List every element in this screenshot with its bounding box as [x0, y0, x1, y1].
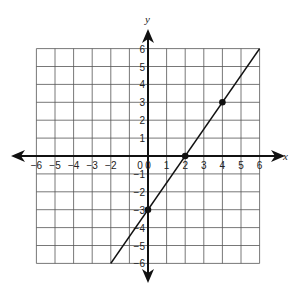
y-tick-label: −6	[134, 258, 146, 269]
axes	[11, 29, 285, 283]
y-tick-label: 6	[139, 44, 145, 55]
y-tick-label: −5	[134, 241, 146, 252]
y-tick-label: −3	[134, 205, 146, 216]
data-point	[219, 99, 226, 106]
y-axis-label: y	[144, 13, 150, 25]
x-tick-label: 2	[182, 160, 188, 171]
data-point	[145, 206, 152, 213]
y-tick-label: 1	[139, 133, 145, 144]
x-axis-label: x	[282, 150, 288, 162]
y-tick-label: 4	[139, 79, 145, 90]
x-tick-label: 3	[201, 160, 207, 171]
x-tick-label: −6	[31, 160, 43, 171]
x-tick-label: −5	[49, 160, 61, 171]
y-tick-label: 2	[139, 115, 145, 126]
y-tick-label: −2	[134, 187, 146, 198]
x-tick-label: 5	[238, 160, 244, 171]
coordinate-plane: −6−5−4−3−201234560654321−1−2−3−4−5−6 x y	[0, 0, 303, 294]
x-tick-label: 4	[220, 160, 226, 171]
x-tick-label: 1	[164, 160, 170, 171]
x-tick-label: −4	[68, 160, 80, 171]
x-tick-label: 6	[257, 160, 263, 171]
x-tick-label: 0	[145, 160, 151, 171]
y-tick-label: 5	[139, 62, 145, 73]
x-tick-label: −3	[86, 160, 98, 171]
y-tick-label: −1	[134, 169, 146, 180]
x-tick-label: −2	[105, 160, 117, 171]
y-tick-label: 3	[139, 97, 145, 108]
data-point	[182, 153, 189, 160]
